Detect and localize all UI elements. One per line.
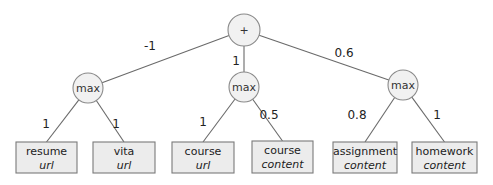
leaf-term-label: resume (26, 145, 67, 158)
root-sum-node: + (228, 14, 260, 46)
leaf-term-label: course (185, 145, 222, 158)
node-label: max (391, 79, 415, 92)
edge-weight-label: 0.8 (347, 108, 366, 122)
leaf-term-box: courseurl (172, 142, 234, 173)
edge-weight-label: -1 (144, 39, 156, 53)
query-tree-diagram: -110.61110.50.81 +maxmaxmaxresumeurlvita… (0, 0, 493, 185)
edge-weight-label: 0.5 (259, 108, 278, 122)
node-label: max (232, 81, 256, 94)
max-middle-node: max (229, 72, 259, 102)
max-right-node: max (388, 70, 418, 100)
edge-weight-label: 1 (42, 117, 50, 131)
leaf-term-label: assignment (333, 145, 398, 158)
edge-max-left-to-leaf (96, 100, 124, 142)
leaf-field-label: content (423, 159, 466, 172)
edge-weight-label: 1 (433, 108, 441, 122)
edge-max-left-to-leaf (47, 100, 79, 142)
edge-weight-label: 1 (112, 117, 120, 131)
leaf-term-box: homeworkcontent (412, 142, 477, 173)
edge-weight-label: 1 (232, 54, 240, 68)
leaf-field-label: content (261, 158, 304, 171)
leaf-term-box: vitaurl (93, 142, 155, 173)
leaf-field-label: url (117, 159, 132, 172)
leaf-term-label: vita (114, 145, 135, 158)
edge-weight-label: 0.6 (334, 46, 353, 60)
leaf-field-label: url (196, 159, 211, 172)
leaf-term-box: resumeurl (16, 142, 77, 173)
edge-weight-label: 1 (199, 115, 207, 129)
leaf-term-label: course (264, 144, 301, 157)
node-label: max (76, 82, 100, 95)
nodes: +maxmaxmaxresumeurlvitaurlcourseurlcours… (16, 14, 477, 173)
max-left-node: max (73, 73, 103, 103)
edge-max-middle-to-leaf (203, 99, 235, 142)
edge-root-to-max-right (259, 35, 389, 80)
leaf-term-box: coursecontent (252, 141, 313, 173)
edge-max-right-to-leaf (365, 97, 395, 142)
node-label: + (239, 24, 248, 37)
leaf-term-box: assignmentcontent (333, 142, 398, 173)
leaf-field-label: url (39, 159, 54, 172)
leaf-term-label: homework (416, 145, 474, 158)
edge-root-to-max-left (102, 36, 229, 83)
leaf-field-label: content (344, 159, 387, 172)
